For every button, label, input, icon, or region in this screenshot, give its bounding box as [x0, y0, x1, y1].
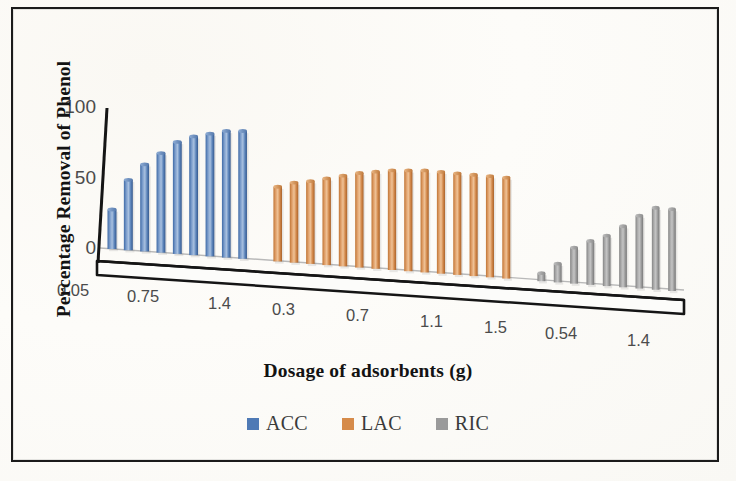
bar-cap	[668, 207, 676, 211]
bar-cap	[290, 181, 299, 185]
legend-label-lac: LAC	[361, 412, 402, 435]
x-tick-8: 1.4	[627, 331, 650, 350]
legend-swatch-acc	[247, 418, 259, 430]
bar-lac-12[interactable]	[470, 175, 478, 276]
bar-cap	[388, 168, 396, 172]
x-tick-6: 1.5	[484, 318, 507, 337]
bar-cap	[404, 169, 412, 173]
bar-lac-8[interactable]	[404, 170, 412, 271]
bar-cap	[486, 174, 494, 178]
figure-container: 100 50 0 0.05 0.75 1.4 0.3 0.7 1.1 1.5 0…	[0, 0, 736, 481]
bar-ric-3[interactable]	[586, 241, 594, 285]
chart-plot-area: 100 50 0 0.05 0.75 1.4 0.3 0.7 1.1 1.5 0…	[0, 0, 736, 481]
bar-cap	[189, 134, 198, 138]
series-bars-lac	[273, 168, 511, 280]
legend-swatch-lac	[342, 418, 354, 430]
bar-cap	[372, 170, 380, 174]
bar-cap	[619, 224, 627, 228]
bar-lac-2[interactable]	[306, 181, 315, 264]
bar-acc-3[interactable]	[157, 153, 166, 253]
bar-lac-5[interactable]	[355, 173, 363, 268]
bar-lac-6[interactable]	[372, 172, 380, 269]
bar-acc-8[interactable]	[238, 131, 247, 259]
bar-lac-0[interactable]	[273, 187, 282, 262]
bar-lac-1[interactable]	[290, 183, 299, 263]
bar-acc-6[interactable]	[206, 134, 215, 257]
bar-ric-7[interactable]	[652, 208, 660, 290]
bar-acc-1[interactable]	[124, 180, 133, 250]
bar-cap	[502, 176, 510, 180]
bar-lac-7[interactable]	[388, 170, 396, 270]
bar-ric-6[interactable]	[636, 216, 644, 289]
bar-chart-svg	[0, 0, 736, 481]
x-tick-2: 1.4	[208, 294, 231, 313]
bar-lac-11[interactable]	[453, 173, 461, 275]
bar-cap	[570, 246, 578, 250]
x-tick-3: 0.3	[272, 300, 295, 319]
bar-cap	[437, 170, 445, 174]
bar-ric-4[interactable]	[603, 236, 611, 287]
bar-ric-1[interactable]	[554, 264, 562, 283]
legend-label-acc: ACC	[266, 412, 308, 435]
legend-item-lac[interactable]: LAC	[342, 412, 402, 435]
bar-cap	[206, 132, 215, 136]
chart-legend: ACC LAC RIC	[0, 412, 736, 435]
x-tick-4: 0.7	[346, 306, 369, 325]
bar-cap	[339, 174, 347, 178]
legend-item-ric[interactable]: RIC	[436, 412, 489, 435]
bar-acc-5[interactable]	[189, 136, 198, 255]
bar-cap	[124, 178, 133, 182]
x-tick-1: 0.75	[127, 287, 159, 306]
bar-cap	[554, 262, 562, 266]
bar-cap	[586, 239, 594, 243]
bar-cap	[306, 179, 315, 183]
bar-cap	[355, 171, 363, 175]
bar-cap	[603, 234, 611, 238]
bar-acc-7[interactable]	[222, 131, 231, 258]
bar-cap	[636, 214, 644, 218]
bar-cap	[273, 185, 282, 189]
bar-lac-3[interactable]	[322, 178, 330, 265]
bar-ric-8[interactable]	[668, 209, 676, 291]
series-bars-ric	[537, 206, 677, 293]
x-tick-7: 0.54	[545, 324, 577, 343]
x-axis-title: Dosage of adsorbents (g)	[0, 360, 736, 382]
legend-item-acc[interactable]: ACC	[247, 412, 308, 435]
bar-lac-13[interactable]	[486, 176, 494, 277]
bar-cap	[470, 173, 478, 177]
bar-cap	[652, 206, 660, 210]
bar-cap	[322, 177, 330, 181]
bar-cap	[108, 208, 117, 212]
bar-lac-14[interactable]	[502, 178, 510, 279]
bar-cap	[222, 129, 231, 133]
bar-acc-4[interactable]	[173, 142, 182, 254]
bar-ric-5[interactable]	[619, 226, 627, 287]
bar-cap	[421, 169, 429, 173]
bar-cap	[238, 129, 247, 133]
series-bars-acc	[108, 129, 249, 261]
legend-label-ric: RIC	[455, 412, 489, 435]
bar-cap	[157, 151, 166, 155]
bar-cap	[173, 140, 182, 144]
bar-cap	[453, 171, 461, 175]
bar-lac-9[interactable]	[421, 170, 429, 272]
bar-ric-2[interactable]	[570, 248, 578, 284]
y-axis-title: Percentage Removal of Phenol	[53, 39, 75, 339]
bar-cap	[537, 271, 545, 275]
x-tick-5: 1.1	[420, 312, 443, 331]
bar-acc-2[interactable]	[140, 164, 149, 251]
bar-cap	[140, 162, 149, 166]
bar-lac-10[interactable]	[437, 172, 445, 274]
legend-swatch-ric	[436, 418, 448, 430]
value-axis-line	[98, 108, 107, 263]
bar-acc-0[interactable]	[108, 210, 117, 249]
bar-lac-4[interactable]	[339, 176, 347, 267]
